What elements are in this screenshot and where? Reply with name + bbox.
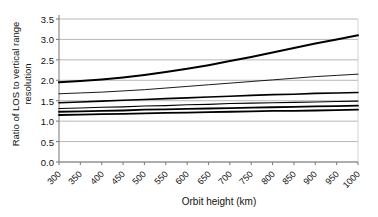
x-axis-tick-labels: 3003504004505005506006507007508008509009… (0, 0, 378, 217)
x-axis-title: Orbit height (km) (0, 196, 378, 207)
chart-container: Ratio of LOS to vertical range resolutio… (0, 0, 378, 217)
